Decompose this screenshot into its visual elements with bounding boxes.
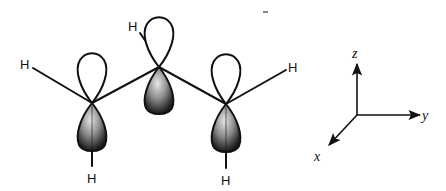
- orbital-diagram: H H H H H z y x: [0, 0, 446, 191]
- hydrogen-label-h3: H: [128, 19, 137, 34]
- x-axis-label: x: [313, 149, 321, 164]
- upper-lobe-c1: [78, 53, 107, 103]
- p-orbital-c2: [145, 17, 174, 114]
- coordinate-axes: [329, 64, 420, 145]
- y-axis-label: y: [420, 108, 429, 123]
- hydrogen-label-h4: H: [288, 60, 297, 75]
- z-axis-label: z: [351, 46, 358, 61]
- p-orbital-c3: [212, 54, 241, 152]
- hydrogen-label-h2: H: [87, 171, 96, 186]
- lower-lobe-c2: [145, 67, 174, 114]
- x-axis-arrow: [329, 115, 357, 145]
- hydrogen-label-h5: H: [221, 173, 230, 188]
- upper-lobe-c2: [145, 17, 174, 67]
- p-orbital-c1: [78, 53, 107, 151]
- hydrogen-label-h1: H: [20, 57, 29, 72]
- upper-lobe-c3: [212, 54, 241, 104]
- diagram-svg: H H H H H z y x: [0, 0, 446, 191]
